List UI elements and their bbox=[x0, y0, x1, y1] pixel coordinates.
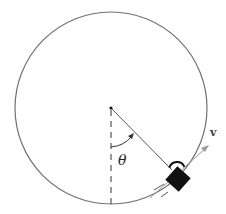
angle-arc bbox=[111, 136, 132, 147]
mass-square bbox=[165, 166, 190, 191]
pendulum-diagram: θ v bbox=[0, 0, 226, 214]
mass-block bbox=[159, 155, 196, 192]
angle-arrowhead-icon bbox=[128, 133, 134, 139]
angle-label: θ bbox=[118, 152, 127, 168]
pivot-point bbox=[109, 106, 112, 109]
velocity-label: v bbox=[209, 126, 217, 139]
tangent-mark-2 bbox=[161, 192, 168, 197]
